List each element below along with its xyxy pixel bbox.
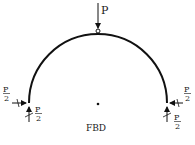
left-h-den: 2 [4,94,9,103]
caption: FBD [86,123,106,133]
right-v-num: P [174,113,180,122]
left-v-num: P [35,105,41,114]
left-h-num: P [3,85,9,94]
top-hinge [96,29,100,33]
right-v-den: 2 [175,122,180,131]
fbd-diagram: P FBD P 2 P 2 P 2 P 2 [0,0,195,145]
right-h-den: 2 [185,94,190,103]
right-h-num: P [184,85,190,94]
load-label: P [101,4,109,17]
arch [29,34,167,103]
left-v-den: 2 [36,114,41,123]
center-point [97,103,100,106]
